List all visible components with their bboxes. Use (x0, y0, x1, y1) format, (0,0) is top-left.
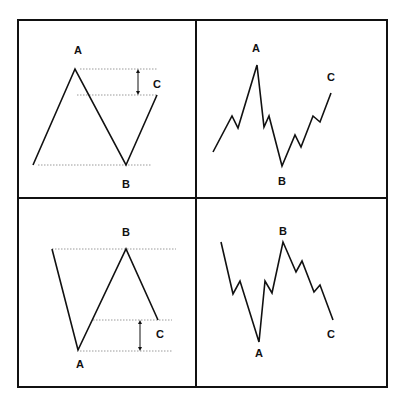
wave-line (213, 65, 331, 166)
wave-diagram: ABCABCBACBAC (0, 0, 400, 401)
point-label-a: A (76, 358, 84, 370)
panels: ABCABCBACBAC (33, 42, 335, 370)
point-label-c: C (156, 328, 164, 340)
point-label-a: A (252, 42, 260, 54)
panel-top-left: ABC (33, 44, 161, 190)
point-label-c: C (327, 71, 335, 83)
wave-line (52, 249, 158, 350)
point-label-b: B (122, 178, 130, 190)
point-label-c: C (153, 78, 161, 90)
double-arrow-icon (136, 69, 140, 95)
wave-line (221, 242, 333, 342)
panel-top-right: ABC (213, 42, 335, 187)
point-label-b: B (278, 175, 286, 187)
panel-bottom-right: BAC (221, 225, 335, 359)
point-label-b: B (279, 225, 287, 237)
panel-bottom-left: BAC (52, 226, 176, 370)
point-label-c: C (327, 328, 335, 340)
point-label-b: B (122, 226, 130, 238)
point-label-a: A (255, 347, 263, 359)
point-label-a: A (74, 44, 82, 56)
double-arrow-icon (138, 320, 142, 351)
